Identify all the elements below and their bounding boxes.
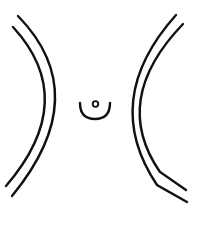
line-drawing	[0, 0, 197, 247]
dot-circle	[93, 101, 99, 107]
left-inner-arc	[6, 27, 45, 186]
cup-shape	[80, 103, 110, 119]
